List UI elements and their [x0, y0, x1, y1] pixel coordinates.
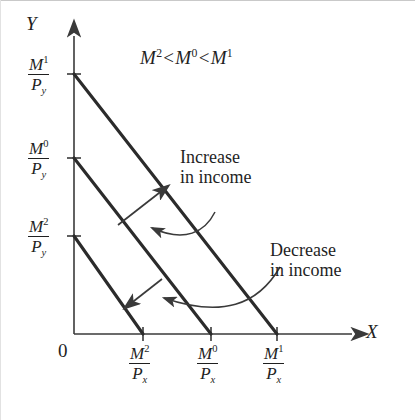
x-intercept-label-m2: M2 Px: [128, 345, 151, 383]
fraction-numerator: M2: [27, 218, 50, 236]
fraction-numerator: M0: [196, 345, 219, 363]
x-intercept-label-m1: M1 Px: [262, 345, 285, 383]
figure-container: Y X 0 M2<M0<M1 M1 Py M0 Py M2 Py M2 Px: [0, 0, 415, 420]
fraction-numerator: M0: [27, 140, 50, 158]
y-intercept-label-m2: M2 Py: [27, 218, 50, 256]
annotation-line-2: in income: [180, 167, 251, 187]
decrease-leader-line: [164, 267, 280, 307]
x-intercept-label-m0: M0 Px: [196, 345, 219, 383]
fraction-m2-py: M2 Py: [27, 218, 50, 256]
fraction-denominator: Px: [196, 364, 219, 382]
budget-line-m1: [74, 74, 277, 334]
annotation-line-2: in income: [270, 260, 341, 280]
y-axis-label: Y: [26, 14, 37, 33]
y-intercept-label-m0: M0 Py: [27, 140, 50, 178]
increase-in-income-annotation: Increase in income: [180, 147, 251, 187]
fraction-numerator: M1: [27, 56, 50, 74]
decrease-shift-arrow: [125, 279, 162, 308]
fraction-numerator: M2: [128, 345, 151, 363]
fraction-denominator: Py: [27, 159, 50, 177]
fraction-denominator: Py: [27, 237, 50, 255]
budget-line-m2: [74, 236, 143, 334]
inequality-operator-2: <: [198, 47, 211, 68]
origin-label: 0: [58, 341, 68, 360]
x-axis-label: X: [366, 322, 378, 341]
fraction-m1-py: M1 Py: [27, 56, 50, 94]
inequality-term-1: M2: [140, 47, 162, 68]
income-inequality-label: M2<M0<M1: [140, 48, 233, 67]
fraction-m0-py: M0 Py: [27, 140, 50, 178]
decrease-in-income-annotation: Decrease in income: [270, 240, 341, 280]
fraction-m1-px: M1 Px: [262, 345, 285, 383]
annotation-line-1: Increase: [180, 147, 251, 167]
fraction-denominator: Py: [27, 75, 50, 93]
y-intercept-label-m1: M1 Py: [27, 56, 50, 94]
fraction-denominator: Px: [128, 364, 151, 382]
inequality-term-2: M0: [175, 47, 197, 68]
inequality-term-3: M1: [211, 47, 233, 68]
increase-shift-arrow: [118, 186, 168, 225]
fraction-m0-px: M0 Px: [196, 345, 219, 383]
fraction-denominator: Px: [262, 364, 285, 382]
fraction-numerator: M1: [262, 345, 285, 363]
fraction-m2-px: M2 Px: [128, 345, 151, 383]
annotation-line-1: Decrease: [270, 240, 341, 260]
inequality-operator-1: <: [162, 47, 175, 68]
